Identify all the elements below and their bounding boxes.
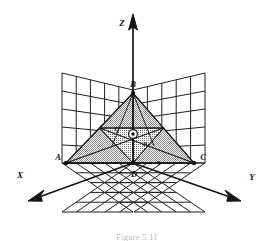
axis-label-z: Z — [118, 18, 125, 28]
vertex-label-B: B — [129, 79, 136, 89]
interior-label-P: P — [143, 140, 148, 148]
axis-label-x: X — [16, 170, 24, 180]
vertex-label-A: A — [54, 152, 61, 162]
z-axis-arrowhead — [129, 14, 138, 30]
centroid-marker-O — [129, 130, 138, 139]
figure-caption: Figure 5.11 — [0, 233, 274, 241]
vertex-label-C: C — [200, 152, 206, 162]
dot-B — [131, 91, 135, 95]
dot-A — [64, 161, 68, 165]
figure-container: X Y Z A B C D Q O P Figure 5.11 — [0, 0, 274, 241]
dot-C — [192, 161, 196, 165]
vertex-label-D: D — [130, 169, 137, 179]
axis-label-y: Y — [249, 172, 256, 182]
geometry-figure: X Y Z A B C D Q O P — [0, 0, 274, 241]
interior-label-Q: Q — [114, 125, 119, 133]
dot-extra-base — [157, 161, 161, 165]
dot-D — [131, 161, 135, 165]
